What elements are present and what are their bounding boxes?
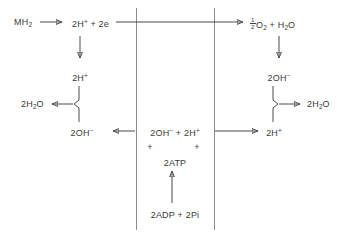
label-right-water: 2H2O xyxy=(307,99,330,112)
label-center-adp-phosphate: 2ADP + 2Pi xyxy=(151,210,200,220)
label-center-hydroxide-protons: 2OH− + 2H+ xyxy=(150,126,199,138)
label-oxygen-water: 12O2 + H2O xyxy=(250,17,295,33)
label-right-hydroxide: 2OH− xyxy=(268,71,291,83)
membrane-right-boundary xyxy=(214,8,215,230)
label-right-protons: 2H+ xyxy=(266,126,282,138)
label-substrate-mh2: MH2 xyxy=(14,17,32,30)
label-left-protons: 2H+ xyxy=(72,71,88,83)
membrane-left-boundary xyxy=(136,8,137,230)
one-half-fraction: 12 xyxy=(250,17,256,30)
label-left-water: 2H2O xyxy=(21,99,44,112)
label-left-hydroxide: 2OH− xyxy=(71,126,94,138)
label-center-atp: 2ATP xyxy=(164,158,187,168)
arrow-line-art: 2H+ + 2e --> ATP (upward arrow) --> xyxy=(0,0,350,236)
chemiosmosis-diagram: 2H+ + 2e --> ATP (upward arrow) --> MH2 … xyxy=(0,0,350,236)
label-center-plus-left: + xyxy=(147,142,152,152)
label-protons-electrons: 2H+ + 2e xyxy=(72,17,109,29)
label-center-plus-right: + xyxy=(194,142,199,152)
